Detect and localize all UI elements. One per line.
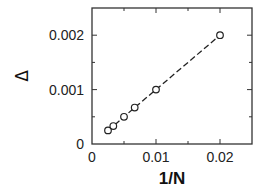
chart: 00.010.02 00.0010.002 1/N Δ bbox=[0, 0, 265, 193]
circle-marker bbox=[153, 86, 160, 93]
circle-marker bbox=[131, 104, 138, 111]
x-axis-label: 1/N bbox=[159, 169, 185, 188]
y-tick-label: 0.002 bbox=[49, 27, 84, 43]
y-tick-label: 0.001 bbox=[49, 82, 84, 98]
circle-marker bbox=[121, 114, 128, 121]
y-tick-labels: 00.0010.002 bbox=[49, 27, 84, 152]
x-tick-labels: 00.010.02 bbox=[88, 149, 234, 165]
x-tick-label: 0.02 bbox=[206, 149, 233, 165]
circle-marker bbox=[217, 32, 224, 39]
circle-marker bbox=[110, 123, 117, 130]
x-tick-label: 0.01 bbox=[142, 149, 169, 165]
y-axis-label: Δ bbox=[12, 70, 32, 82]
x-tick-label: 0 bbox=[88, 149, 96, 165]
y-tick-label: 0 bbox=[76, 136, 84, 152]
